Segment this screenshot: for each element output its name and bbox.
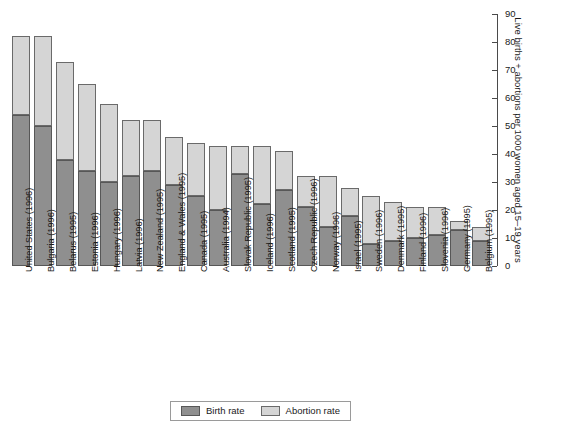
abortion-rate-segment — [209, 146, 227, 210]
abortion-rate-segment — [34, 36, 52, 126]
x-axis-label: Slovenia (1996) — [441, 208, 450, 272]
x-axis-label: Australia (1994) — [222, 207, 231, 272]
x-axis-label: Latvia (1996) — [135, 218, 144, 272]
x-axis-label: Germany (1995) — [463, 205, 472, 272]
x-axis-label: Israel (1995) — [354, 220, 363, 272]
birth-rate-swatch — [181, 406, 200, 416]
x-axis-label: Denmark (1995) — [397, 206, 406, 272]
x-axis-label: Scotland (1995) — [288, 207, 297, 272]
legend-label-birth-rate: Birth rate — [206, 406, 245, 416]
abortion-rate-segment — [78, 84, 96, 171]
x-axis-label: Canada (1995) — [200, 211, 209, 272]
abortion-rate-segment — [253, 146, 271, 205]
abortion-rate-swatch — [261, 406, 280, 416]
legend-item-abortion-rate: Abortion rate — [261, 406, 340, 416]
x-axis-label: United States (1996) — [25, 188, 34, 272]
abortion-rate-segment — [100, 104, 118, 182]
x-axis-label: Norway (1996) — [332, 212, 341, 272]
legend-item-birth-rate: Birth rate — [181, 406, 245, 416]
abortion-rate-segment — [122, 120, 140, 176]
x-axis-label: New Zealand (1995) — [156, 189, 165, 272]
abortion-rate-segment — [187, 143, 205, 196]
x-axis-label: Belgium (1995) — [485, 210, 494, 272]
x-axis-label: Czech Republic (1996) — [310, 179, 319, 272]
abortion-rate-segment — [231, 146, 249, 174]
x-axis-label: Sweden (1996) — [375, 210, 384, 272]
abortion-rate-segment — [143, 120, 161, 170]
x-axis-label: Belarus (1995) — [69, 212, 78, 272]
stacked-bar-chart: 0102030405060708090 Live births + aborti… — [0, 0, 581, 439]
chart-legend: Birth rate Abortion rate — [170, 401, 351, 421]
x-axis-label: Slovak Republic (1995) — [244, 177, 253, 272]
legend-label-abortion-rate: Abortion rate — [286, 406, 340, 416]
x-axis-label: Hungary (1996) — [113, 208, 122, 272]
x-axis-label: England & Wales (1995) — [178, 173, 187, 272]
abortion-rate-segment — [12, 36, 30, 114]
x-axis-label: Iceland (1996) — [266, 213, 275, 272]
x-axis-label: Finland (1996) — [419, 213, 428, 272]
y-axis-title: Live births + abortions per 1000 women a… — [472, 14, 524, 266]
x-axis-label: Estonia (1996) — [91, 212, 100, 272]
x-axis-label: Bulgaria (1996) — [47, 209, 56, 272]
abortion-rate-segment — [275, 151, 293, 190]
abortion-rate-segment — [341, 188, 359, 216]
abortion-rate-segment — [56, 62, 74, 160]
